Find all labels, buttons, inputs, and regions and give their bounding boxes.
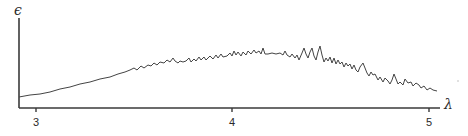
chart: ϵ λ 3 4 5 xyxy=(0,0,468,136)
epsilon-curve xyxy=(19,46,437,97)
scan-speck xyxy=(457,80,459,82)
tick-label-3: 3 xyxy=(33,116,39,128)
tick-label-5: 5 xyxy=(426,116,432,128)
tick-label-4: 4 xyxy=(229,116,235,128)
x-axis-label: λ xyxy=(443,96,453,112)
y-axis-label: ϵ xyxy=(14,2,22,18)
x-ticks: 3 4 5 xyxy=(33,108,432,128)
